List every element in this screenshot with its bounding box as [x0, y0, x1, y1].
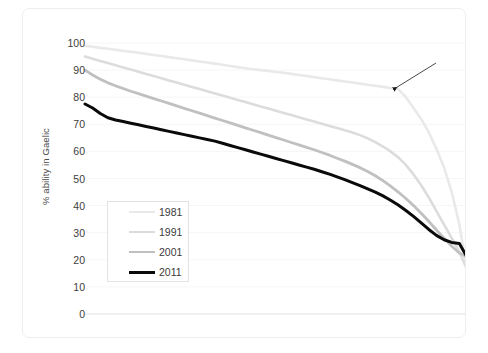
legend-label-1991: 1991 [159, 227, 185, 238]
y-tick-label: 70 [51, 119, 85, 130]
y-tick-label: 40 [51, 201, 85, 212]
y-tick-label: 60 [51, 146, 85, 157]
y-axis-ticks: 1009080706050403020100 [47, 9, 85, 338]
legend-swatch-2011 [129, 271, 155, 274]
y-tick-label: 100 [51, 38, 85, 49]
legend-swatch-1991 [129, 231, 155, 233]
y-tick-label: 30 [51, 228, 85, 239]
legend-swatch-2001 [129, 251, 155, 253]
legend-swatch-1981 [129, 211, 155, 213]
legend-item-2011: 2011 [108, 262, 188, 282]
chart-legend: 1981 1991 2001 2011 [107, 201, 189, 282]
y-tick-label: 50 [51, 174, 85, 185]
y-tick-label: 90 [51, 65, 85, 76]
legend-item-1991: 1991 [108, 222, 188, 242]
line-chart-plot [23, 9, 466, 338]
legend-label-1981: 1981 [159, 207, 185, 218]
y-tick-label: 20 [51, 255, 85, 266]
legend-item-1981: 1981 [108, 202, 188, 222]
y-tick-label: 10 [51, 282, 85, 293]
legend-item-2001: 2001 [108, 242, 188, 262]
y-tick-label: 0 [51, 309, 85, 320]
annotation-arrow [394, 63, 436, 89]
arrow-icon [394, 63, 436, 89]
chart-card: 1009080706050403020100 % ability in Gael… [22, 8, 466, 338]
legend-label-2011: 2011 [159, 267, 185, 278]
y-tick-label: 80 [51, 92, 85, 103]
y-axis-title: % ability in Gaelic [40, 107, 51, 227]
chart-screenshot: 1009080706050403020100 % ability in Gael… [0, 0, 488, 353]
legend-label-2001: 2001 [159, 247, 185, 258]
